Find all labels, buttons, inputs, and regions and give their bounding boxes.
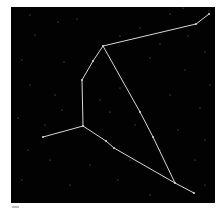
star — [194, 159, 195, 160]
star — [57, 21, 58, 22]
constellation-star — [193, 192, 195, 194]
constellation-lines — [43, 14, 209, 193]
star — [169, 94, 170, 95]
star — [34, 34, 35, 35]
star — [63, 61, 64, 62]
star — [21, 59, 22, 60]
star — [99, 99, 100, 100]
star — [54, 94, 55, 95]
star — [204, 139, 205, 140]
star — [119, 35, 120, 36]
star — [29, 14, 30, 15]
star — [187, 35, 188, 36]
star — [204, 51, 205, 52]
star — [17, 117, 18, 118]
star — [21, 179, 22, 180]
star — [184, 69, 185, 70]
star — [129, 159, 130, 160]
caption-fragment — [12, 206, 19, 208]
star — [159, 43, 160, 44]
star — [49, 159, 50, 160]
constellation-star — [82, 125, 84, 127]
star — [76, 18, 77, 19]
constellation-line — [43, 14, 209, 137]
constellation-star — [81, 79, 83, 81]
star — [119, 87, 120, 88]
star — [134, 124, 135, 125]
constellation-star — [152, 136, 154, 138]
star — [27, 149, 28, 150]
constellation-star — [139, 111, 141, 113]
star — [44, 124, 45, 125]
star — [204, 184, 205, 185]
constellation-line — [83, 126, 194, 193]
star — [149, 194, 150, 195]
constellation-star — [92, 60, 94, 62]
star — [182, 7, 183, 8]
constellation-star — [113, 147, 115, 149]
star — [109, 111, 110, 112]
constellation-chart — [0, 0, 218, 211]
constellation-star — [105, 140, 107, 142]
star — [69, 184, 70, 185]
star — [177, 129, 178, 130]
star — [209, 84, 210, 85]
constellation-star — [42, 136, 44, 138]
star — [89, 164, 90, 165]
star — [61, 109, 62, 110]
star — [169, 13, 170, 14]
constellation-star — [195, 23, 197, 25]
background-stars — [17, 7, 210, 195]
constellation-star — [174, 182, 176, 184]
star — [149, 57, 150, 58]
constellation-star — [208, 13, 210, 15]
star — [139, 27, 140, 28]
star — [117, 179, 118, 180]
star — [29, 84, 30, 85]
constellation-star — [102, 45, 104, 47]
star — [199, 107, 200, 108]
